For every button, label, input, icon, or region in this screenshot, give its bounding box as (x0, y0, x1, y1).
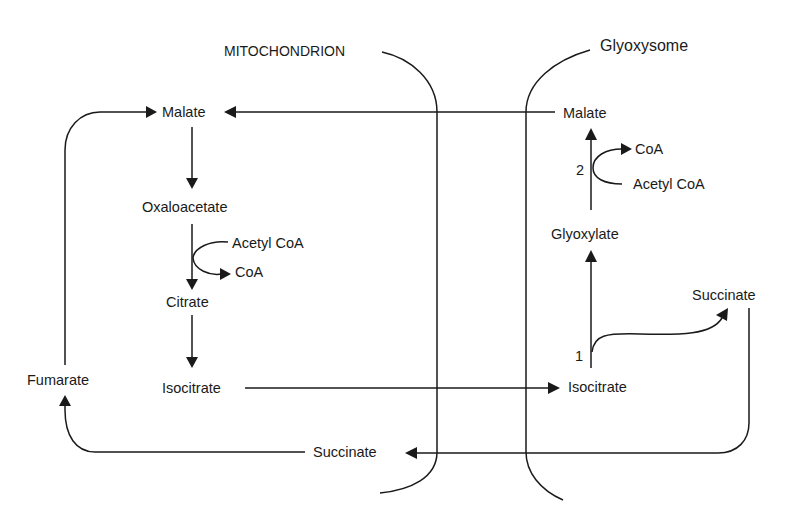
glyox-glyoxylate-label: Glyoxylate (551, 226, 619, 242)
arrow-succinate-to-fumarate (59, 395, 305, 452)
arrow-isocitrate-export (245, 382, 560, 394)
mito-malate-label: Malate (162, 104, 206, 120)
mito-succinate-label: Succinate (313, 444, 377, 460)
arrow-citrate-to-isocitrate (186, 315, 198, 368)
mitochondrion-membrane (380, 52, 437, 493)
arrow-malate-to-oxaloacetate (186, 127, 198, 189)
glyox-isocitrate-label: Isocitrate (568, 379, 627, 395)
enzyme-2-label: 2 (576, 162, 584, 178)
arrow-malate-export (224, 106, 555, 118)
glyox-coa-label: CoA (635, 141, 664, 157)
glyox-acetyl-coa-label: Acetyl CoA (633, 176, 705, 192)
glyox-succinate-label: Succinate (692, 287, 756, 303)
mito-coa-label: CoA (235, 264, 264, 280)
mito-acetyl-coa-label: Acetyl CoA (232, 235, 304, 251)
arrow-glyoxylate-to-malate (585, 128, 632, 210)
arrow-fumarate-to-malate (65, 106, 157, 365)
mito-isocitrate-label: Isocitrate (162, 380, 221, 396)
mito-citrate-label: Citrate (166, 294, 209, 310)
enzyme-1-label: 1 (575, 348, 583, 364)
mitochondrion-label: MITOCHONDRION (224, 43, 345, 59)
glyox-malate-label: Malate (563, 105, 607, 121)
arrow-oxaloacetate-to-citrate (186, 224, 231, 290)
glyoxylate-cycle-diagram: MITOCHONDRION Glyoxysome Malate Oxaloace… (0, 0, 797, 532)
mito-fumarate-label: Fumarate (27, 372, 89, 388)
arrow-isocitrate-to-succinate (592, 308, 728, 352)
mito-oxaloacetate-label: Oxaloacetate (142, 199, 227, 215)
arrow-isocitrate-to-glyoxylate (585, 250, 597, 368)
glyoxysome-label: Glyoxysome (600, 37, 688, 54)
